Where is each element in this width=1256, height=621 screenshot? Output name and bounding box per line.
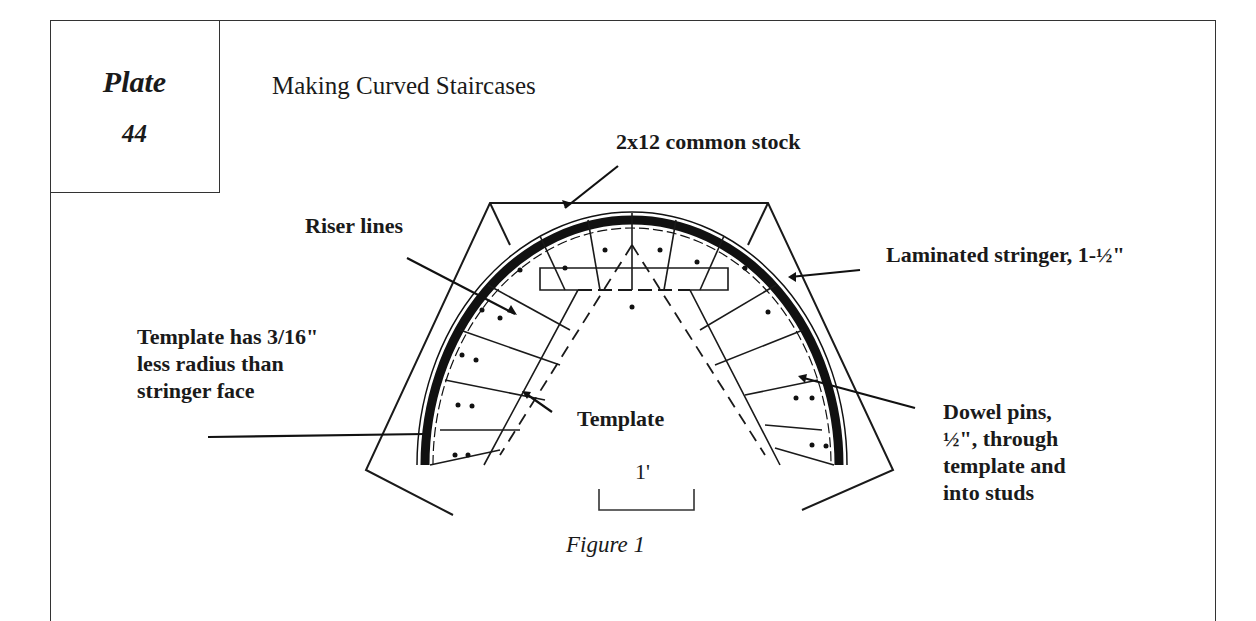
template-outline bbox=[484, 268, 780, 465]
label-riser-lines: Riser lines bbox=[305, 212, 403, 239]
label-dowel-pins: Dowel pins, ½", through template and int… bbox=[943, 398, 1066, 506]
scale-bar bbox=[599, 489, 694, 510]
label-template: Template bbox=[577, 405, 664, 432]
label-common-stock: 2x12 common stock bbox=[616, 128, 801, 155]
figure-caption: Figure 1 bbox=[566, 532, 645, 558]
label-laminated-stringer: Laminated stringer, 1-½" bbox=[886, 241, 1125, 268]
label-template-radius: Template has 3/16" less radius than stri… bbox=[137, 323, 318, 404]
scale-label: 1' bbox=[635, 458, 650, 485]
